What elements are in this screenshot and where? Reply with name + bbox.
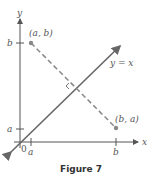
origin-label: 0 xyxy=(21,144,27,154)
line-y-equals-x xyxy=(11,46,120,152)
dashed-segment xyxy=(31,43,116,128)
x-axis-label: x xyxy=(142,137,147,147)
point-a-b-label: (a, b) xyxy=(29,28,53,38)
x-tick-label-b: b xyxy=(113,147,119,157)
point-b-a-label: (b, a) xyxy=(115,114,139,124)
y-tick-label-b: b xyxy=(7,38,13,48)
y-axis-label: y xyxy=(16,8,23,18)
figure-caption: Figure 7 xyxy=(60,164,102,174)
y-tick-label-a: a xyxy=(7,124,12,134)
figure-diagram: y x b a a b 0 (a, b) (b, a) y = x Figure… xyxy=(0,0,156,177)
point-b-a xyxy=(114,126,118,130)
right-angle-marker xyxy=(66,83,69,89)
line-label: y = x xyxy=(109,58,133,68)
x-tick-label-a: a xyxy=(28,147,33,157)
point-a-b xyxy=(29,41,33,45)
